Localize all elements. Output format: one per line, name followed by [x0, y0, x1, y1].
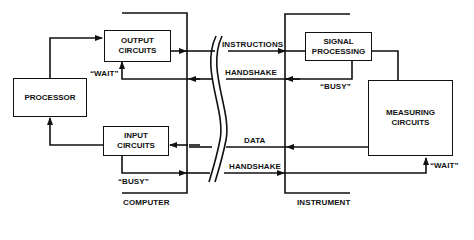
signal-processing-label: SIGNAL PROCESSING — [312, 37, 365, 57]
processor-box: PROCESSOR — [13, 78, 87, 117]
input-circuits-label: INPUT CIRCUITS — [117, 131, 155, 151]
measuring-circuits-label: MEASURING CIRCUITS — [386, 108, 435, 128]
processor-label: PROCESSOR — [24, 93, 75, 103]
busy-computer-label: “BUSY” — [118, 177, 149, 186]
instrument-group-label: INSTRUMENT — [297, 198, 350, 207]
measuring-circuits-box: MEASURING CIRCUITS — [368, 80, 453, 156]
handshake-bottom-label: HANDSHAKE — [229, 162, 281, 171]
handshake-top-label: HANDSHAKE — [225, 68, 277, 77]
wait-computer-label: “WAIT” — [90, 69, 119, 78]
break-curve-left — [209, 36, 221, 182]
computer-group-label: COMPUTER — [123, 198, 170, 207]
input-circuits-box: INPUT CIRCUITS — [103, 126, 169, 156]
break-curve-right — [215, 36, 227, 182]
wait-instrument-label: “WAIT” — [430, 161, 459, 170]
data-label: DATA — [244, 136, 265, 145]
output-circuits-label: OUTPUT CIRCUITS — [119, 36, 157, 56]
instructions-label: INSTRUCTIONS — [222, 40, 283, 49]
output-circuits-box: OUTPUT CIRCUITS — [104, 30, 171, 62]
signal-processing-box: SIGNAL PROCESSING — [305, 32, 372, 61]
busy-instrument-label: “BUSY” — [320, 82, 351, 91]
